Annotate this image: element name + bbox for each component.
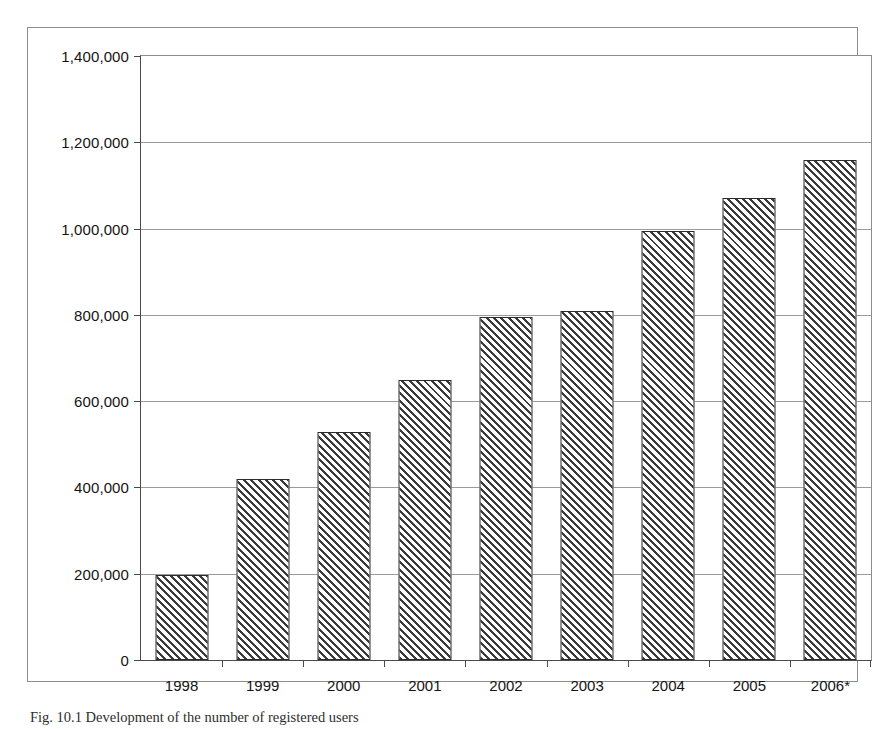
- y-axis-tick-label: 0: [121, 652, 129, 669]
- x-axis-tick-mark: [222, 660, 223, 667]
- bar-chart: 0200,000400,000600,000800,0001,000,0001,…: [27, 27, 858, 682]
- y-axis-tick-label: 1,400,000: [61, 48, 129, 65]
- bar[interactable]: [479, 317, 532, 660]
- x-axis-tick-label: 2000: [327, 677, 360, 694]
- y-axis-tick-mark: [134, 401, 141, 402]
- x-axis-tick-label: 2005: [733, 677, 766, 694]
- bar-group: 2001: [384, 56, 465, 660]
- x-axis-tick-mark: [384, 660, 385, 667]
- y-axis-tick-mark: [134, 487, 141, 488]
- y-axis-tick-mark: [134, 315, 141, 316]
- y-axis-tick-label: 1,000,000: [61, 220, 129, 237]
- x-axis-tick-mark: [465, 660, 466, 667]
- x-axis-tick-label: 2001: [408, 677, 441, 694]
- y-axis-tick-mark: [134, 574, 141, 575]
- y-axis-tick-label: 1,200,000: [61, 134, 129, 151]
- figure-caption: Fig. 10.1 Development of the number of r…: [30, 709, 850, 726]
- x-axis-tick-label: 2003: [570, 677, 603, 694]
- x-axis-tick-label: 2006*: [811, 677, 850, 694]
- bar[interactable]: [561, 311, 614, 660]
- bar-group: 2002: [465, 56, 546, 660]
- y-axis-tick-label: 600,000: [74, 393, 129, 410]
- x-axis-tick-label: 1999: [246, 677, 279, 694]
- x-axis-tick-mark: [547, 660, 548, 667]
- bar[interactable]: [317, 432, 370, 660]
- y-axis-tick-mark: [134, 660, 141, 661]
- bar[interactable]: [398, 380, 451, 660]
- figure-root: 0200,000400,000600,000800,0001,000,0001,…: [0, 0, 880, 729]
- bar-group: 2005: [709, 56, 790, 660]
- x-axis-tick-label: 1998: [165, 677, 198, 694]
- bar-group: 2006*: [790, 56, 871, 660]
- x-axis-tick-label: 2004: [652, 677, 685, 694]
- y-axis-tick-mark: [134, 142, 141, 143]
- bar-group: 1999: [222, 56, 303, 660]
- x-axis-tick-label: 2002: [489, 677, 522, 694]
- x-axis-tick-mark: [870, 660, 871, 667]
- y-axis-tick-label: 800,000: [74, 306, 129, 323]
- bar[interactable]: [155, 575, 208, 660]
- y-axis-tick-mark: [134, 229, 141, 230]
- y-axis-tick-label: 200,000: [74, 565, 129, 582]
- x-axis-tick-mark: [628, 660, 629, 667]
- bar-group: 2000: [303, 56, 384, 660]
- bar-group: 1998: [141, 56, 222, 660]
- x-axis-tick-mark: [303, 660, 304, 667]
- bar[interactable]: [236, 479, 289, 660]
- bar[interactable]: [642, 231, 695, 660]
- bar[interactable]: [804, 160, 857, 660]
- y-axis-tick-mark: [134, 56, 141, 57]
- x-axis-tick-mark: [790, 660, 791, 667]
- x-axis-tick-mark: [709, 660, 710, 667]
- bar-group: 2003: [547, 56, 628, 660]
- bar[interactable]: [723, 198, 776, 660]
- bars-layer: 199819992000200120022003200420052006*: [141, 56, 871, 660]
- plot-area: 0200,000400,000600,000800,0001,000,0001,…: [140, 55, 872, 661]
- bar-group: 2004: [628, 56, 709, 660]
- y-axis-tick-label: 400,000: [74, 479, 129, 496]
